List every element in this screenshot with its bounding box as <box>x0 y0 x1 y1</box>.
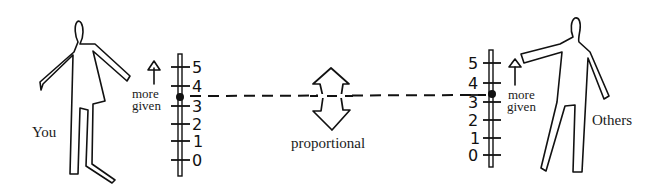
right-tick-4: 4 <box>468 74 478 93</box>
left-tick-5: 5 <box>192 58 202 77</box>
right-marker-dot <box>488 90 496 98</box>
left-person-figure <box>40 21 130 183</box>
left-annotation-line2: given <box>132 98 161 113</box>
double-headed-arrow-icon <box>310 68 353 130</box>
right-tick-0: 0 <box>468 146 478 165</box>
left-scale: 5 4 3 2 1 0 <box>171 54 203 176</box>
left-tick-3: 3 <box>192 97 202 116</box>
right-tick-5: 5 <box>468 54 478 73</box>
left-more-given-arrow-icon <box>148 61 160 84</box>
left-marker-dot <box>176 93 184 101</box>
others-label: Others <box>592 112 632 128</box>
you-label: You <box>32 124 57 140</box>
proportional-giving-diagram: You more given 5 4 3 2 1 0 <box>0 0 667 191</box>
left-tick-1: 1 <box>193 132 203 151</box>
proportional-label: proportional <box>291 135 365 151</box>
left-tick-0: 0 <box>192 151 202 170</box>
right-scale: 5 4 3 2 1 0 <box>466 50 501 167</box>
right-tick-2: 2 <box>468 111 478 130</box>
left-tick-4: 4 <box>192 77 202 96</box>
right-annotation-line2: given <box>507 99 536 114</box>
right-more-given-arrow-icon <box>509 59 521 85</box>
